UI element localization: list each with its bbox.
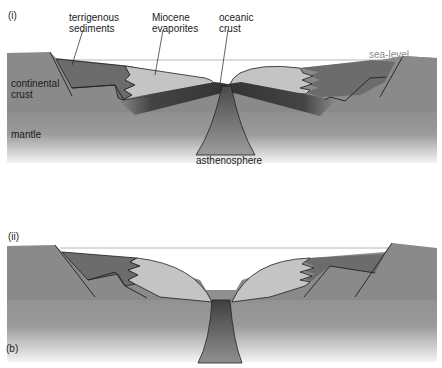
continental-line1: continental <box>11 78 59 89</box>
panel-ii-cross-section <box>0 240 442 368</box>
label-mantle: mantle <box>11 129 41 140</box>
label-asthenosphere: asthenosphere <box>196 155 262 166</box>
continental-line2: crust <box>11 89 59 100</box>
figure-part-label: (b) <box>6 343 18 354</box>
panel-i-cross-section <box>0 0 442 170</box>
label-continental-crust: continental crust <box>11 78 59 100</box>
label-sea-level: sea-level <box>369 49 409 60</box>
